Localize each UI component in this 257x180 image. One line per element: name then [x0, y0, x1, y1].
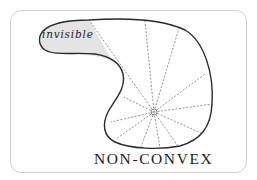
invisible-label: invisible [42, 28, 94, 40]
visibility-rays [89, 20, 212, 148]
diagram-title: NON-CONVEX [94, 150, 213, 168]
viewpoint-marker [151, 109, 157, 115]
